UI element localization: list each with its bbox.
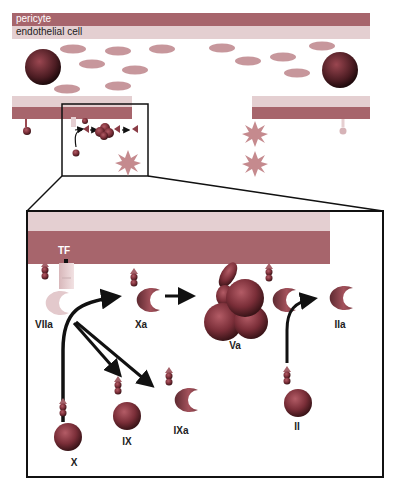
arrow-VIIa-to-IX <box>74 323 118 373</box>
label-Xa: Xa <box>126 319 156 330</box>
factor-IXa <box>165 367 198 412</box>
tf-label: TF <box>58 245 70 256</box>
label-IXa: IXa <box>166 425 196 436</box>
factor-IIa <box>330 286 353 310</box>
star-icon <box>115 150 141 176</box>
factor-Xa <box>130 268 160 312</box>
factor-IX <box>113 376 141 430</box>
mini-factor-right <box>340 119 347 135</box>
label-X: X <box>59 457 89 468</box>
label-IX: IX <box>112 436 142 447</box>
label-VIIa: VIIa <box>29 319 59 330</box>
platelets <box>54 42 335 94</box>
label-Va: Va <box>220 340 250 351</box>
label-II: II <box>282 421 312 432</box>
label-IIa: IIa <box>325 319 355 330</box>
cell-sphere-right <box>322 52 358 88</box>
mini-factor-left <box>23 119 31 135</box>
arrow-VIIa-to-IXa <box>76 322 150 384</box>
factor-X <box>54 398 82 451</box>
factor-Va-complex <box>204 259 296 341</box>
star-icon <box>242 151 268 177</box>
factor-II <box>283 366 312 417</box>
star-icon <box>242 121 268 147</box>
cell-sphere-left <box>25 49 61 85</box>
tf-receptor <box>59 263 74 289</box>
